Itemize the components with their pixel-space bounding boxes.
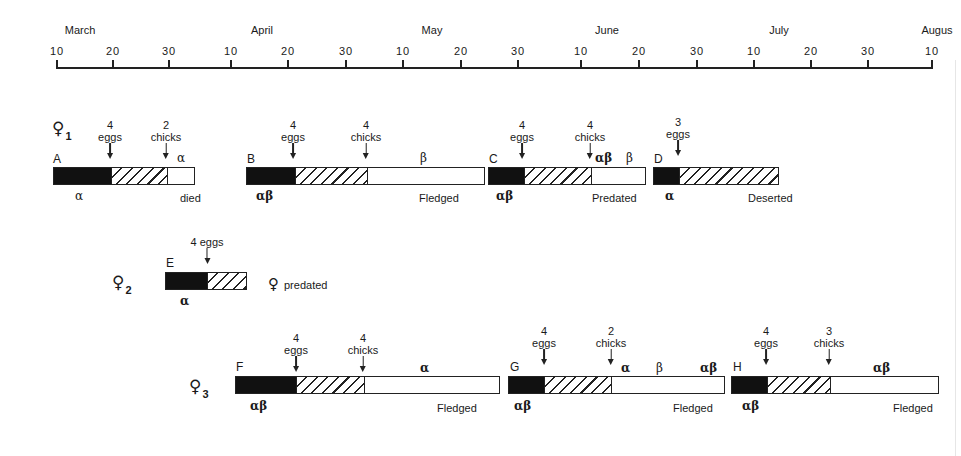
marker-count: 4 <box>351 119 382 131</box>
tick-mark <box>112 60 114 68</box>
tick-mark <box>287 60 289 68</box>
marker-count: 2 <box>596 325 627 337</box>
tick-mark <box>580 60 582 68</box>
female-outcome-label: ♀predated <box>268 275 327 293</box>
marker-text: eggs <box>666 128 690 140</box>
nest-bar-c <box>488 167 646 185</box>
tick-label: 20 <box>804 45 818 57</box>
male-attendance-label: α <box>665 189 674 203</box>
nest-bar-a <box>53 167 195 185</box>
nest-letter: E <box>166 256 174 270</box>
tick-mark <box>402 60 404 68</box>
female-index: 2 <box>125 284 131 296</box>
marker-text: chicks <box>351 131 382 143</box>
male-attendance-label: αβ <box>496 189 513 203</box>
male-attendance-label: α <box>75 189 83 203</box>
tick-label: 30 <box>339 45 353 57</box>
female-index: 3 <box>202 388 208 400</box>
event-marker: 4chicks <box>348 332 379 372</box>
tick-mark <box>517 60 519 68</box>
female-label: ♀3 <box>189 376 209 396</box>
marker-text: eggs <box>281 131 305 143</box>
arrow-shaft <box>165 143 167 153</box>
nestling-segment <box>367 168 484 184</box>
tick-mark <box>810 60 812 68</box>
down-arrow-icon <box>754 349 778 365</box>
down-arrow-icon <box>351 143 382 159</box>
month-label: March <box>65 24 96 36</box>
tick-mark <box>753 60 755 68</box>
incubation-segment <box>524 168 591 184</box>
nest-bar-f <box>235 376 500 394</box>
arrow-head <box>519 153 525 159</box>
outcome-label: Deserted <box>748 192 793 204</box>
nest-letter: C <box>489 152 498 166</box>
tick-label: 20 <box>454 45 468 57</box>
nest-letter: H <box>733 360 742 374</box>
outcome-label: Fledged <box>673 402 713 414</box>
marker-text: eggs <box>98 131 122 143</box>
female-index: 1 <box>65 130 71 142</box>
nest-letter: A <box>53 152 61 166</box>
arrow-head <box>360 366 366 372</box>
down-arrow-icon <box>348 356 379 372</box>
arrow-head <box>763 359 769 365</box>
nest-letter: F <box>236 360 243 374</box>
event-marker: 2chicks <box>596 325 627 365</box>
marker-text: eggs <box>532 337 556 349</box>
arrow-head <box>826 359 832 365</box>
male-attendance-label: αβ <box>256 189 273 203</box>
tick-mark <box>867 60 869 68</box>
male-attendance-label: αβ <box>742 399 759 413</box>
event-marker: 4eggs <box>532 325 556 365</box>
laying-period-segment <box>509 377 544 393</box>
tick-label: 30 <box>162 45 176 57</box>
down-arrow-icon <box>510 143 534 159</box>
down-arrow-icon <box>666 140 690 156</box>
nestling-segment <box>167 168 194 184</box>
incubation-segment <box>295 168 367 184</box>
nest-letter: D <box>654 152 663 166</box>
event-marker: 4eggs <box>754 325 778 365</box>
tick-label: 10 <box>747 45 761 57</box>
month-label: July <box>769 24 789 36</box>
marker-text: eggs <box>510 131 534 143</box>
marker-count: 4 <box>98 119 122 131</box>
event-marker: 4eggs <box>284 332 308 372</box>
arrow-shaft <box>521 143 523 153</box>
event-marker: 4chicks <box>351 119 382 159</box>
male-attendance-label: αβ <box>873 361 890 375</box>
male-attendance-label: α <box>180 294 189 308</box>
nestling-segment <box>591 168 645 184</box>
marker-count: 4 eggs <box>190 236 223 248</box>
event-marker: 4eggs <box>98 119 122 159</box>
nest-bar-e <box>165 272 247 290</box>
male-attendance-label: β <box>656 361 663 375</box>
tick-label: 20 <box>106 45 120 57</box>
laying-period-segment <box>236 377 296 393</box>
tick-label: 30 <box>861 45 875 57</box>
marker-count: 3 <box>666 116 690 128</box>
marker-count: 4 <box>575 119 606 131</box>
tick-mark <box>230 60 232 68</box>
arrow-head <box>107 153 113 159</box>
arrow-head <box>290 153 296 159</box>
laying-period-segment <box>247 168 295 184</box>
arrow-shaft <box>765 349 767 359</box>
arrow-shaft <box>543 349 545 359</box>
male-attendance-label: αβ <box>595 151 612 165</box>
nestling-segment <box>611 377 724 393</box>
event-marker: 3chicks <box>814 325 845 365</box>
male-attendance-label: α <box>420 361 429 375</box>
down-arrow-icon <box>281 143 305 159</box>
axis-line <box>56 67 933 69</box>
outcome-label: Fledged <box>419 192 459 204</box>
nest-letter: B <box>247 152 255 166</box>
female-symbol-icon: ♀ <box>112 272 124 292</box>
arrow-shaft <box>589 143 591 153</box>
tick-mark <box>56 60 58 68</box>
outcome-label: predated <box>284 279 327 291</box>
female-symbol-icon: ♀ <box>268 275 279 293</box>
marker-count: 4 <box>754 325 778 337</box>
female-symbol-icon: ♀ <box>52 118 64 138</box>
